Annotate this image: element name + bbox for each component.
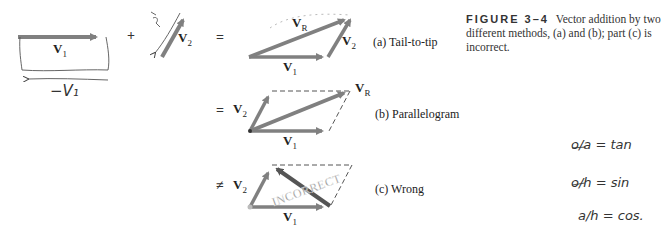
panel-a-label: (a) Tail-to-tip bbox=[373, 35, 438, 50]
label-a-vr: VR bbox=[292, 15, 307, 33]
handwritten-cos: a/h = cos. bbox=[578, 208, 644, 223]
not-equal-operator-c: ≠ bbox=[216, 178, 224, 194]
handwritten-tan: o/a = tan bbox=[571, 137, 632, 152]
plus-operator: + bbox=[127, 28, 135, 44]
handwritten-sin: o/h = sin bbox=[571, 175, 629, 190]
label-v2: V2 bbox=[178, 30, 192, 48]
label-b-v2: V2 bbox=[233, 101, 247, 119]
figure-caption: FIGURE 3–4 Vector addition by two differ… bbox=[466, 12, 665, 54]
label-c-v1: V1 bbox=[283, 209, 297, 227]
figure-number: FIGURE 3–4 bbox=[466, 13, 549, 25]
label-a-v1: V1 bbox=[283, 59, 297, 77]
equals-operator-b: = bbox=[216, 103, 224, 119]
panel-b-diagram bbox=[248, 91, 350, 133]
label-a-v2: V2 bbox=[342, 33, 356, 51]
label-b-vr: VR bbox=[355, 80, 370, 98]
handwritten-neg-v1-text: −V₁ bbox=[50, 82, 79, 100]
label-c-v2: V2 bbox=[233, 177, 247, 195]
label-b-v1: V1 bbox=[283, 133, 297, 151]
equals-operator-a: = bbox=[216, 30, 224, 46]
panel-b-label: (b) Parallelogram bbox=[375, 107, 459, 122]
panel-c-label: (c) Wrong bbox=[375, 182, 424, 197]
label-v1: V1 bbox=[53, 41, 67, 59]
figure-canvas: INCORRECT + = = ≠ V1 V2 VR V2 V1 (a) Tai… bbox=[0, 0, 665, 234]
